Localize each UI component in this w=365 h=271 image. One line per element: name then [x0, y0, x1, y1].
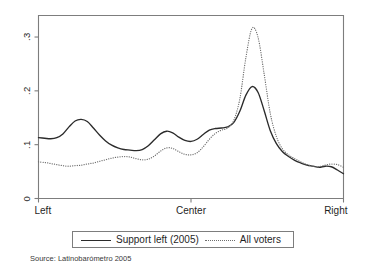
- y-tick-label: .1: [22, 137, 32, 151]
- source-note: Source: Latinobarómetro 2005: [30, 255, 131, 263]
- legend-label-support-left: Support left (2005): [116, 235, 199, 245]
- legend-entry-all-voters[interactable]: All voters: [205, 235, 281, 245]
- x-tick-label: Center: [173, 206, 209, 216]
- x-tick-label: Left: [35, 206, 52, 216]
- x-tick-label: Right: [324, 206, 347, 216]
- chart-legend[interactable]: Support left (2005) All voters: [72, 231, 294, 248]
- legend-key-dotted-line-icon: [205, 235, 235, 244]
- plot-frame: [39, 16, 344, 199]
- legend-entry-support-left[interactable]: Support left (2005): [81, 235, 199, 245]
- plot-area: .3.2.10 LeftCenterRight: [0, 0, 365, 222]
- legend-key-solid-line-icon: [81, 235, 111, 244]
- y-tick-label: 0: [22, 191, 32, 205]
- series-line-support-left: [39, 86, 344, 173]
- legend-label-all-voters: All voters: [240, 235, 281, 245]
- y-axis-ticks: [35, 37, 39, 198]
- y-tick-label: .3: [22, 30, 32, 44]
- density-line-chart: [0, 0, 365, 222]
- chart-figure: .3.2.10 LeftCenterRight Support left (20…: [0, 0, 365, 271]
- series-layer: [39, 27, 344, 173]
- x-axis-ticks: [39, 199, 344, 203]
- y-tick-label: .2: [22, 84, 32, 98]
- series-line-all-voters: [39, 27, 344, 167]
